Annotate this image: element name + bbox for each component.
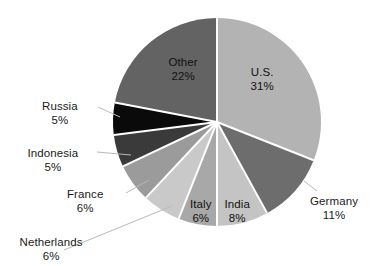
leader-line-netherlands [64,206,172,250]
pie-chart-svg [0,0,378,266]
leader-line-germany [304,181,317,191]
pie-chart-figure: U.S.31%Germany11%India8%Italy6%Netherlan… [0,0,378,266]
